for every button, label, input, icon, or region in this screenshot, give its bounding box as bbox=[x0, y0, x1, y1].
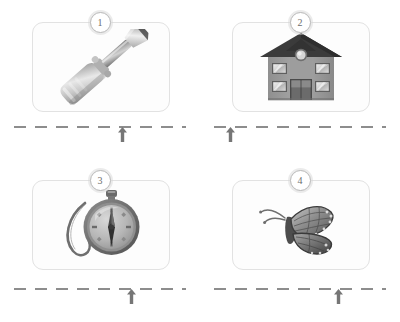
picture-card-4 bbox=[232, 180, 370, 270]
item-number-badge-wrap: 3 bbox=[6, 170, 194, 190]
worksheet-item-4: 4 bbox=[206, 170, 394, 320]
item-number-badge-wrap: 4 bbox=[206, 170, 394, 190]
up-arrow-start-marker bbox=[226, 127, 235, 142]
house-icon bbox=[256, 29, 346, 105]
dashed-guide-line bbox=[214, 126, 386, 128]
worksheet-page: 1 bbox=[0, 0, 400, 322]
worksheet-item-1: 1 bbox=[6, 12, 194, 162]
picture-card-1 bbox=[32, 22, 170, 112]
up-arrow-start-marker bbox=[127, 289, 136, 304]
screwdriver-icon bbox=[41, 29, 161, 105]
picture-card-3 bbox=[32, 180, 170, 270]
worksheet-item-3: 3 bbox=[6, 170, 194, 320]
item-number-badge: 3 bbox=[90, 170, 111, 191]
dashed-guide-line bbox=[14, 126, 186, 128]
worksheet-item-2: 2 bbox=[206, 12, 394, 162]
writing-line-2[interactable] bbox=[214, 126, 386, 156]
up-arrow-start-marker bbox=[334, 289, 343, 304]
picture-card-2 bbox=[232, 22, 370, 112]
item-number-badge-wrap: 2 bbox=[206, 12, 394, 32]
dashed-guide-line bbox=[214, 288, 386, 290]
writing-line-4[interactable] bbox=[214, 288, 386, 318]
writing-line-1[interactable] bbox=[14, 126, 186, 156]
dashed-guide-line bbox=[14, 288, 186, 290]
up-arrow-start-marker bbox=[118, 127, 127, 142]
butterfly-icon bbox=[247, 188, 355, 262]
item-number-badge: 1 bbox=[90, 12, 111, 33]
compass-icon bbox=[49, 187, 153, 263]
item-number-badge: 4 bbox=[290, 170, 311, 191]
item-number-badge-wrap: 1 bbox=[6, 12, 194, 32]
writing-line-3[interactable] bbox=[14, 288, 186, 318]
item-number-badge: 2 bbox=[290, 12, 311, 33]
